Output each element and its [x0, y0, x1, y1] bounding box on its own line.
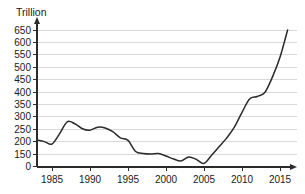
ytick-label-650: 650: [14, 25, 31, 36]
chart-container: 650 600 550 500 450 400 350 300 250 200 …: [0, 0, 305, 194]
x-tick-labels-group: 1985 1990 1995 2000 2005 2010 2015: [41, 174, 292, 185]
ytick-label-200: 200: [14, 136, 31, 147]
ytick-label-250: 250: [14, 124, 31, 135]
ytick-label-450: 450: [14, 74, 31, 85]
ytick-label-150: 150: [14, 149, 31, 160]
ytick-label-550: 550: [14, 49, 31, 60]
ytick-label-0: 0: [25, 161, 31, 172]
y-tick-labels-group: 650 600 550 500 450 400 350 300 250 200 …: [14, 25, 31, 172]
line-chart-plot: 650 600 550 500 450 400 350 300 250 200 …: [0, 0, 305, 194]
ytick-label-500: 500: [14, 62, 31, 73]
xtick-label-1985: 1985: [41, 174, 64, 185]
xtick-label-2005: 2005: [193, 174, 216, 185]
x-axis-arrow-icon: [290, 164, 297, 170]
ytick-label-300: 300: [14, 111, 31, 122]
ytick-label-600: 600: [14, 37, 31, 48]
x-axis-group: [37, 164, 297, 171]
y-axis-unit-label: Trillion: [16, 6, 47, 18]
xtick-label-2015: 2015: [269, 174, 292, 185]
data-series-line: [37, 30, 288, 164]
xtick-label-1995: 1995: [117, 174, 140, 185]
ytick-label-350: 350: [14, 99, 31, 110]
xtick-label-1990: 1990: [79, 174, 102, 185]
gridlines-group: [37, 30, 297, 154]
ytick-label-400: 400: [14, 87, 31, 98]
y-axis-arrow-icon: [34, 17, 40, 24]
xtick-label-2000: 2000: [155, 174, 178, 185]
xtick-label-2010: 2010: [231, 174, 254, 185]
